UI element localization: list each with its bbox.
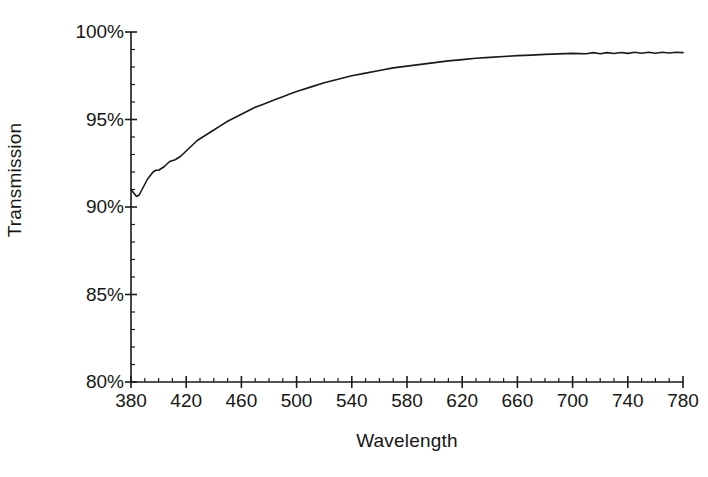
transmission-spectrum-chart: Transmission Wavelength 80%85%90%95%100%…: [0, 0, 708, 477]
axes: [125, 32, 683, 388]
data-series: [131, 52, 683, 196]
series-line: [131, 52, 683, 196]
plot-canvas: [0, 0, 708, 477]
